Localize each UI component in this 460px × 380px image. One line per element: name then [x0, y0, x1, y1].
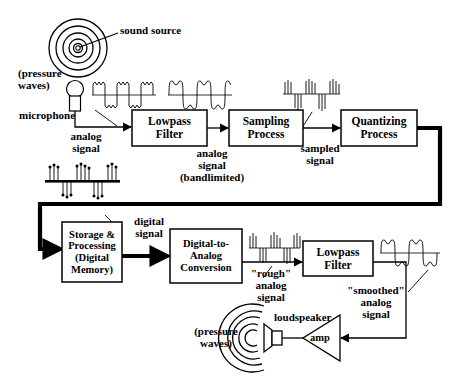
mic-to-lowpass-wire — [75, 111, 131, 127]
block-label-line: Process — [361, 128, 398, 141]
block-label-line: Processing — [68, 240, 116, 252]
analog-signal-bandlimited-label: analog signal (bandlimited) — [164, 148, 260, 184]
pressure-waves-label-top: (pressure waves) — [18, 68, 62, 92]
pressure-waves-label-bottom: (pressure waves) — [186, 326, 246, 350]
wave-bandlimited-analog — [168, 81, 232, 109]
block-label-line: Analog — [190, 250, 222, 262]
block-label-line: Filter — [156, 128, 183, 141]
block-label-line: Memory) — [71, 264, 113, 276]
block-label-line: Process — [248, 128, 285, 141]
wave-sampled — [283, 79, 340, 111]
block-label-line: Filter — [324, 259, 351, 272]
diagram-canvas — [0, 0, 460, 380]
loudspeaker-label: loudspeaker — [274, 312, 331, 324]
block-label-line: Lowpass — [148, 115, 191, 128]
microphone-label: microphone — [19, 110, 75, 122]
wave-raw-analog-leader — [95, 110, 117, 126]
sound-source-label: sound source — [120, 25, 181, 37]
block-label-line: Storage & — [69, 229, 115, 241]
block-label-line: Sampling — [243, 115, 290, 128]
wave-quantized — [45, 163, 120, 200]
smoothed-analog-signal-label: "smoothed" analog signal — [338, 285, 414, 321]
signal-chain-diagram: sound source (pressure waves) microphone… — [0, 0, 460, 380]
rough-analog-signal-label: "rough" analog signal — [240, 268, 302, 304]
block-lowpass-filter-1-label: Lowpass Filter — [132, 110, 207, 146]
block-sampling-process-label: Sampling Process — [229, 110, 303, 146]
block-label-line: (Digital — [75, 252, 109, 264]
block-lowpass-filter-2-label: Lowpass Filter — [303, 241, 373, 276]
block-label-line: Quantizing — [352, 115, 407, 128]
block-quantizing-process-label: Quantizing Process — [341, 110, 417, 146]
block-storage-processing-label: Storage & Processing (Digital Memory) — [62, 222, 122, 282]
amp-label: amp — [305, 332, 335, 343]
wave-rough-analog — [249, 232, 300, 264]
block-label-line: Digital-to- — [183, 238, 229, 250]
wave-raw-analog — [92, 82, 156, 108]
sampled-signal-label: sampled signal — [292, 143, 348, 167]
analog-signal-label: analog signal — [58, 131, 114, 155]
block-digital-to-analog-conversion-label: Digital-to- Analog Conversion — [170, 229, 242, 283]
block-label-line: Lowpass — [317, 246, 360, 259]
microphone-icon — [67, 81, 84, 112]
block-label-line: Conversion — [180, 262, 231, 274]
